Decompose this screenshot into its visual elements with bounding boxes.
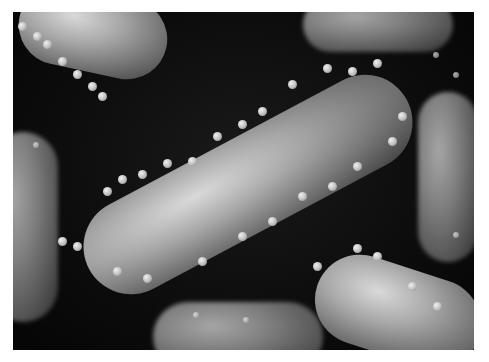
phage	[258, 107, 267, 116]
phage	[408, 282, 417, 291]
phage	[213, 132, 222, 141]
phage	[88, 82, 97, 91]
phage	[353, 244, 362, 253]
phage	[113, 267, 122, 276]
phage	[238, 120, 247, 129]
phage	[43, 40, 52, 49]
phage	[353, 162, 362, 171]
bottom-center-bacterium	[153, 302, 323, 350]
phage	[453, 72, 459, 78]
phage	[18, 22, 27, 31]
bacteria-phage-image	[13, 12, 474, 350]
phage	[143, 274, 152, 283]
phage	[313, 262, 322, 271]
phage	[298, 192, 307, 201]
phage	[453, 232, 459, 238]
phage	[243, 317, 249, 323]
phage	[118, 175, 127, 184]
phage	[398, 112, 407, 121]
phage	[433, 52, 439, 58]
phage	[58, 237, 67, 246]
phage	[98, 92, 107, 101]
left-bacterium	[13, 132, 58, 322]
phage	[323, 64, 332, 73]
phage	[433, 302, 442, 311]
phage	[73, 242, 82, 251]
phage	[198, 257, 207, 266]
phage	[373, 59, 382, 68]
phage	[328, 182, 337, 191]
phage	[288, 80, 297, 89]
top-left-bacterium	[13, 12, 175, 87]
phage	[268, 217, 277, 226]
phage	[188, 157, 197, 166]
phage	[373, 252, 382, 261]
right-bacterium	[418, 92, 474, 262]
phage	[33, 32, 42, 41]
phage	[103, 187, 112, 196]
phage	[138, 170, 147, 179]
phage	[238, 232, 247, 241]
phage	[73, 70, 82, 79]
top-right-bacterium	[303, 12, 453, 52]
phage	[163, 159, 172, 168]
phage	[348, 67, 357, 76]
phage	[58, 57, 67, 66]
phage	[33, 142, 39, 148]
phage	[388, 137, 397, 146]
phage	[193, 312, 199, 318]
